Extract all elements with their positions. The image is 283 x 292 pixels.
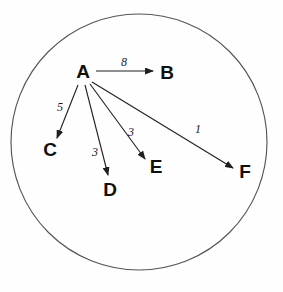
node-e: E [150,156,163,177]
edge-weight-a-e: 3 [127,125,134,139]
edge-weight-a-f: 1 [195,122,201,136]
node-f: F [239,161,251,182]
graph-canvas: 85331 ABCDEF [0,0,283,292]
edge-weight-a-d: 3 [91,145,98,159]
nodes-group: ABCDEF [43,61,251,200]
edge-weight-a-c: 5 [57,100,63,114]
edge-weight-a-b: 8 [121,55,127,69]
node-a: A [76,61,90,82]
node-b: B [160,62,174,83]
edge-a-to-e [90,84,145,159]
edge-a-to-d [85,85,108,175]
node-d: D [103,179,117,200]
edges-group [57,71,233,175]
graph-diagram: 85331 ABCDEF [0,0,283,292]
node-c: C [43,139,57,160]
edge-a-to-f [92,82,233,168]
